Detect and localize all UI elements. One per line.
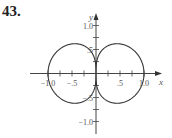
y-tick-label: −.5 (82, 94, 93, 103)
x-tick-label: −.5 (67, 79, 78, 88)
x-tick-label: .5 (117, 79, 123, 88)
y-tick-label: −1.0 (78, 118, 93, 127)
x-axis-arrow-icon (155, 71, 162, 76)
tick-labels: −1.0−.5.51.01.0.5−.5−1.0xy (41, 12, 163, 127)
x-tick-label: 1.0 (139, 79, 149, 88)
y-axis-label: y (88, 12, 93, 22)
x-tick-label: −1.0 (41, 79, 56, 88)
x-axis-label: x (158, 77, 163, 87)
y-tick-label: 1.0 (83, 22, 93, 31)
polar-plot: −1.0−.5.51.01.0.5−.5−1.0xy (0, 0, 172, 138)
y-tick-label: .5 (87, 46, 93, 55)
y-axis-arrow-icon (94, 13, 99, 20)
